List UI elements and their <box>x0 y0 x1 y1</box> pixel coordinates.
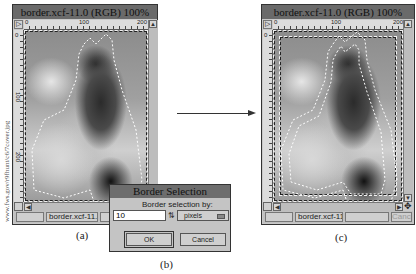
scroll-right-button[interactable]: ▶ <box>395 203 403 211</box>
vertical-scrollbar[interactable]: ▲ ▼ <box>403 20 413 202</box>
chain-link-icon[interactable]: ⇅ <box>168 210 175 221</box>
status-progress <box>345 212 389 222</box>
ruler-tick: 0 <box>15 32 18 38</box>
vertical-ruler: 0 100 200 <box>14 30 24 202</box>
status-cancel-button[interactable]: Cancel <box>391 212 412 222</box>
border-size-input[interactable]: 10 <box>113 210 166 221</box>
scroll-left-button[interactable]: ◀ <box>24 203 32 211</box>
status-coords <box>265 212 293 222</box>
dropdown-arrow-icon <box>217 214 225 219</box>
ok-button[interactable]: OK <box>126 233 172 246</box>
ruler-corner[interactable]: ▷ <box>263 20 272 29</box>
caption-a: (a) <box>76 229 88 241</box>
status-coords <box>16 212 44 222</box>
selection-border-wolf <box>273 30 403 202</box>
ruler-corner[interactable]: ▷ <box>14 20 23 29</box>
ruler-tick: 100 <box>331 19 341 25</box>
window-a-title: border.xcf-11.0 (RGB) 100% <box>13 5 157 19</box>
selection-outline-wolf <box>24 30 148 202</box>
unit-dropdown[interactable]: pixels <box>177 210 229 221</box>
ruler-tick: 100 <box>15 92 21 102</box>
ruler-tick: 0 <box>274 19 277 25</box>
arrow-head-icon <box>248 110 256 116</box>
navigate-icon[interactable]: ✥ <box>403 202 413 211</box>
border-selection-dialog: Border Selection Border selection by: 10… <box>109 184 231 228</box>
window-c-title: border.xcf-11.0 (RGB) 100% <box>262 5 414 19</box>
quickmask-toggle[interactable] <box>263 202 272 211</box>
ruler-tick: 200 <box>393 19 403 25</box>
transition-arrow <box>177 113 249 114</box>
image-canvas-wolf[interactable] <box>24 30 148 202</box>
unit-dropdown-value: pixels <box>184 212 202 219</box>
status-bar: border.xcf-11.0 Cancel <box>263 211 413 223</box>
image-window-c: border.xcf-11.0 (RGB) 100% ▷ 0 100 200 0… <box>261 4 415 225</box>
horizontal-ruler: 0 100 200 <box>273 20 403 30</box>
scroll-up-button[interactable]: ▲ <box>149 20 157 28</box>
ruler-tick: 0 <box>264 32 267 38</box>
dialog-title: Border Selection <box>110 185 230 198</box>
dialog-button-area: OK Cancel <box>109 227 231 252</box>
scroll-up-button[interactable]: ▲ <box>404 20 412 28</box>
image-canvas-wolf[interactable] <box>273 30 403 202</box>
ruler-tick: 200 <box>137 19 147 25</box>
ruler-tick: 0 <box>25 19 28 25</box>
image-credit: www.fws.gov/r9fhunt/c6/7cover.jpg <box>3 121 11 222</box>
status-filename: border.xcf-11.0 <box>295 212 343 222</box>
status-filename: border.xcf-11.0 <box>46 212 98 222</box>
horizontal-scrollbar[interactable]: ◀ ▶ <box>273 202 403 211</box>
border-selection-label: Border selection by: <box>142 200 213 209</box>
vertical-ruler: 0 <box>263 30 273 202</box>
ruler-tick: 200 <box>15 152 21 162</box>
caption-c: (c) <box>335 231 347 243</box>
cancel-button[interactable]: Cancel <box>180 233 226 246</box>
ruler-tick: 100 <box>79 19 89 25</box>
caption-b: (b) <box>160 258 173 270</box>
vertical-scrollbar[interactable]: ▲ <box>148 20 158 202</box>
scroll-left-button[interactable]: ◀ <box>273 203 281 211</box>
quickmask-toggle[interactable] <box>14 202 23 211</box>
horizontal-ruler: 0 100 200 <box>24 20 148 30</box>
